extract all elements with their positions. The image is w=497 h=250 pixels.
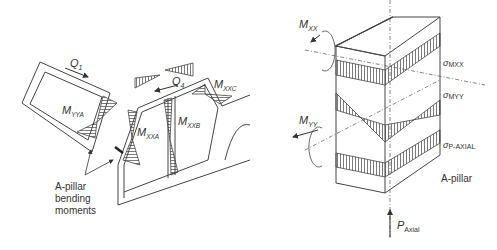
q1-arrow [65,68,88,77]
a-pillar-diagram: Q1 MYYA Q4 MXXC MXXA MXXB A-pillar bendi… [0,0,497,250]
mxxa-label: MXXA [137,126,159,140]
mxx-rotation-icon [322,31,335,71]
sigma-axial-label: σP-AXIAL [443,140,475,150]
mxxb-moment-shape-2 [170,140,178,175]
mxxb-label: MXXB [178,115,201,129]
sigma-mxx-label: σMXX [443,58,464,68]
a-pillar-annotation: A-pillar bending moments [55,181,96,216]
a-pillar-marker [115,147,123,153]
sigma-myy-label: σMYY [443,90,464,100]
q4-label: Q4 [172,75,185,89]
sigma-myy-band [336,93,440,142]
myya-moment-shape [97,96,117,122]
roof-moment-shape-1 [135,75,160,88]
mxxc-moment-shape-2 [205,94,232,104]
a-pillar-label: A-pillar [441,173,473,184]
mxxc-label: MXXC [214,78,237,92]
myya-label: MYYA [62,104,84,118]
q1-label: Q1 [70,57,83,71]
mxx-label: MXX [299,18,318,32]
axial-load-label: PAxial [397,219,420,233]
myy-label: MYY [299,114,319,128]
annotation-arrow-2 [85,160,113,175]
mxxc-moment-shape [192,84,205,94]
annotation-arrow-1 [85,150,91,175]
myy-arrowhead-icon [293,130,318,137]
mxx-arrowhead-icon [311,35,320,42]
